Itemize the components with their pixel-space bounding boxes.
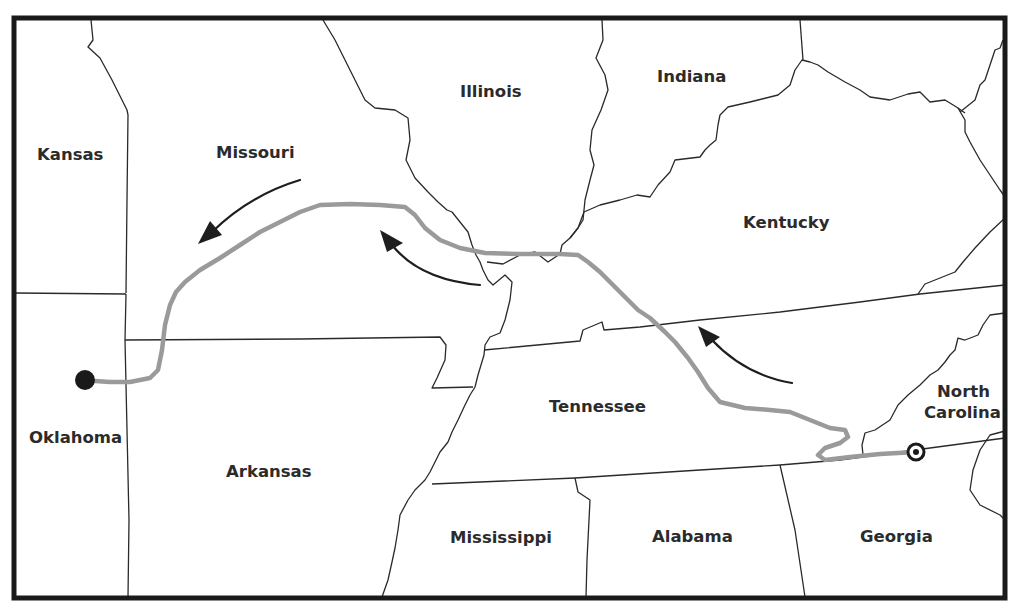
label-north-carolina-line2: Carolina <box>924 403 1001 422</box>
end-marker-dot-icon <box>75 370 95 390</box>
label-mississippi: Mississippi <box>450 528 552 547</box>
label-north-carolina-line1: North <box>937 382 990 401</box>
label-illinois: Illinois <box>460 82 522 101</box>
label-arkansas: Arkansas <box>226 462 312 481</box>
label-kansas: Kansas <box>37 145 104 164</box>
label-missouri: Missouri <box>216 143 295 162</box>
label-kentucky: Kentucky <box>743 213 830 232</box>
trail-map: Kansas Missouri Illinois Indiana Kentuck… <box>0 0 1017 602</box>
label-indiana: Indiana <box>657 67 726 86</box>
label-alabama: Alabama <box>652 527 733 546</box>
label-tennessee: Tennessee <box>549 397 646 416</box>
label-georgia: Georgia <box>860 527 933 546</box>
label-oklahoma: Oklahoma <box>29 428 122 447</box>
start-marker-target-icon <box>908 444 924 460</box>
